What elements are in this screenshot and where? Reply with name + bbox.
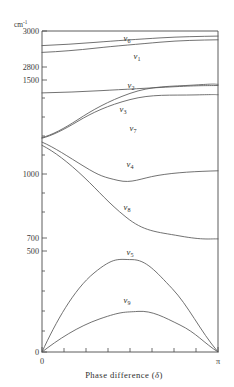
nu8-subscript: 8 — [127, 207, 130, 213]
nu2-subscript: 2 — [131, 85, 134, 91]
x-tick-label-0: 0 — [40, 357, 44, 366]
curve-nu9 — [42, 311, 218, 352]
y-tick-label-500: 500 — [27, 247, 39, 256]
phonon-dispersion-figure: cm-1 3000 2800 1500 1000 700 500 0 0 π ν… — [0, 0, 234, 387]
nu7-subscript: 7 — [133, 128, 136, 134]
curve-label-nu1: ν1 — [134, 51, 141, 62]
svg-text:Phase difference (δ): Phase difference (δ) — [85, 370, 163, 380]
curve-label-nu7: ν7 — [130, 123, 137, 134]
dispersion-plot-svg: cm-1 3000 2800 1500 1000 700 500 0 0 π ν… — [0, 0, 234, 387]
y-tick-label-0: 0 — [35, 348, 39, 357]
curve-label-nu8: ν8 — [124, 202, 131, 213]
y-tick-marks — [42, 31, 47, 352]
y-tick-label-1000: 1000 — [23, 170, 39, 179]
y-tick-label-3000: 3000 — [23, 27, 39, 36]
x-tick-marks — [42, 347, 218, 352]
curve-label-nu4: ν4 — [127, 159, 134, 170]
y-tick-label-2800: 2800 — [23, 63, 39, 72]
curve-label-nu3: ν3 — [120, 104, 127, 115]
nu4-subscript: 4 — [130, 164, 133, 170]
nu3-subscript: 3 — [123, 109, 126, 115]
nu1-subscript: 1 — [137, 56, 140, 62]
curve-label-nu2: ν2 — [128, 80, 135, 91]
nu6-subscript: 6 — [127, 38, 130, 44]
xaxis-title-text: Phase difference ( — [85, 370, 155, 380]
x-tick-label-pi: π — [216, 357, 221, 366]
curve-label-nu9: ν9 — [124, 295, 131, 306]
y-tick-label-700: 700 — [27, 234, 39, 243]
curve-annotations: ν6 ν1 ν2 ν3 ν7 ν4 ν8 ν5 ν9 — [120, 33, 141, 306]
xaxis-title-close: ) — [160, 370, 163, 380]
x-axis-title: Phase difference (δ) — [85, 370, 163, 380]
curve-label-nu6: ν6 — [124, 33, 131, 44]
curve-label-nu5: ν5 — [127, 247, 134, 258]
nu9-subscript: 9 — [127, 300, 130, 306]
nu5-subscript: 5 — [130, 252, 133, 258]
x-tick-labels: 0 π — [40, 357, 221, 366]
y-tick-label-1500: 1500 — [23, 76, 39, 85]
unit-label-exponent: -1 — [23, 19, 28, 25]
y-tick-labels: 3000 2800 1500 1000 700 500 0 — [23, 27, 39, 357]
